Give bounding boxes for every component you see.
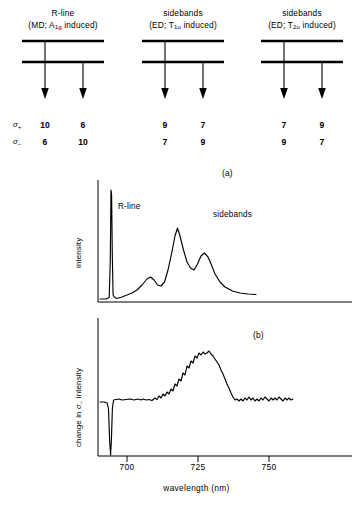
level-diagram-r-line: R-line (MD; A1g induced)	[4, 8, 122, 107]
panel-b-y-axis-label: change in σ− intensity	[74, 368, 83, 447]
y-label-suffix: intensity	[74, 368, 83, 401]
spectra-group: (a) (b) R-line sidebands intensity chang…	[0, 150, 363, 514]
level-diagram-subtitle-post: induced)	[300, 20, 336, 30]
sigma-minus-sign: −	[18, 141, 22, 147]
level-diagram-title-text: R-line	[52, 8, 75, 18]
value-cell: 7	[154, 137, 176, 147]
transition-arrow-left-head	[161, 88, 169, 99]
level-diagram-subtitle-pre: (ED; T	[149, 20, 174, 30]
spectra-canvas	[0, 150, 363, 514]
annotation-r-line: R-line	[118, 202, 141, 211]
level-diagram-group: R-line (MD; A1g induced) sidebands (ED; …	[0, 8, 363, 153]
level-diagram-title: sidebands (ED; T2u induced)	[243, 8, 361, 32]
value-cell: 9	[311, 120, 333, 130]
x-axis-tick-label-725: 725	[183, 462, 213, 472]
y-label-prefix: change in	[74, 409, 83, 447]
level-diagram-graphic	[243, 35, 361, 107]
panel-b-difference-trace	[100, 351, 293, 455]
level-diagram-graphic	[4, 35, 122, 107]
x-axis-tick-label-750: 750	[254, 462, 284, 472]
level-diagram-subtitle-subscript: 1u	[174, 24, 181, 30]
value-cell: 9	[273, 137, 295, 147]
panel-a-label: (a)	[222, 168, 233, 178]
x-axis-label: wavelength (nm)	[15, 483, 363, 493]
level-diagram-subtitle-pre: (ED; T	[268, 20, 293, 30]
row-label-sigma-minus: σ−	[13, 137, 21, 146]
value-cell: 9	[154, 120, 176, 130]
panel-a-y-axis-label: intensity	[74, 238, 83, 268]
transition-arrow-right-head	[79, 88, 87, 99]
level-diagram-sidebands-t1u: sidebands (ED; T1u induced)	[124, 8, 242, 107]
figure-root: R-line (MD; A1g induced) sidebands (ED; …	[0, 0, 363, 514]
value-cell: 9	[192, 137, 214, 147]
sigma-plus-sign: +	[18, 124, 22, 130]
level-diagram-subtitle-subscript: 2u	[293, 24, 300, 30]
level-diagram-sidebands-t2u: sidebands (ED; T2u induced)	[243, 8, 361, 107]
level-diagram-title-text: sidebands	[282, 8, 322, 18]
level-diagram-title: sidebands (ED; T1u induced)	[124, 8, 242, 32]
panel-b-label: (b)	[253, 330, 264, 340]
transition-arrow-left-head	[280, 88, 288, 99]
value-cell: 7	[311, 137, 333, 147]
value-cell: 7	[192, 120, 214, 130]
value-cell: 10	[72, 137, 94, 147]
level-diagram-graphic	[124, 35, 242, 107]
level-diagram-subtitle-post: induced)	[62, 20, 98, 30]
transition-arrow-right-head	[199, 88, 207, 99]
transition-arrow-left-head	[41, 88, 49, 99]
level-diagram-subtitle-post: induced)	[181, 20, 217, 30]
value-cell: 6	[72, 120, 94, 130]
level-diagram-title: R-line (MD; A1g induced)	[4, 8, 122, 32]
value-cell: 6	[34, 137, 56, 147]
value-cell: 7	[273, 120, 295, 130]
level-diagram-title-text: sidebands	[163, 8, 203, 18]
value-cell: 10	[34, 120, 56, 130]
x-axis-tick-label-700: 700	[112, 462, 142, 472]
transition-arrow-right-head	[318, 88, 326, 99]
annotation-sidebands: sidebands	[213, 210, 252, 219]
sigma-minus-sign: −	[78, 401, 84, 405]
level-diagram-subtitle-pre: (MD; A	[28, 20, 55, 30]
sigma-symbol: σ	[74, 404, 83, 409]
row-label-sigma-plus: σ+	[13, 120, 21, 129]
level-diagram-subtitle-subscript: 1g	[55, 24, 62, 30]
